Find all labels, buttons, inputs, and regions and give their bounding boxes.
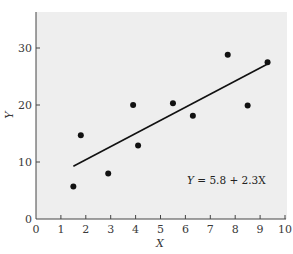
x-tick-label: 7 <box>207 223 214 236</box>
y-axis-label: Y <box>3 110 16 119</box>
y-tick-label: 30 <box>18 42 32 55</box>
data-point <box>105 170 111 176</box>
data-point <box>190 113 196 119</box>
y-tick-label: 20 <box>18 99 32 112</box>
x-tick-label: 1 <box>57 223 64 236</box>
y-tick-label: 0 <box>25 213 32 226</box>
data-point <box>265 59 271 65</box>
x-tick-label: 10 <box>278 223 292 236</box>
regression-equation: Y = 5.8 + 2.3X <box>187 174 266 186</box>
x-tick-label: 6 <box>182 223 189 236</box>
data-point <box>78 132 84 138</box>
x-axis-label: X <box>155 237 165 250</box>
data-point <box>130 102 136 108</box>
data-point <box>170 100 176 106</box>
x-tick-label: 8 <box>232 223 239 236</box>
data-point <box>225 52 231 58</box>
x-tick-label: 9 <box>257 223 264 236</box>
x-tick-label: 2 <box>82 223 89 236</box>
data-point <box>135 142 141 148</box>
scatter-chart: 0102030 012345678910 X Y Y = 5.8 + 2.3X <box>0 0 293 254</box>
x-tick-label: 4 <box>132 223 139 236</box>
equation-x-var: X <box>258 174 266 186</box>
x-tick-label: 5 <box>157 223 164 236</box>
data-point <box>70 184 76 190</box>
y-tick-label: 10 <box>18 156 32 169</box>
equation-body: = 5.8 + 2.3 <box>194 174 258 186</box>
x-tick-label: 3 <box>107 223 114 236</box>
data-point <box>245 103 251 109</box>
x-tick-label: 0 <box>33 223 40 236</box>
